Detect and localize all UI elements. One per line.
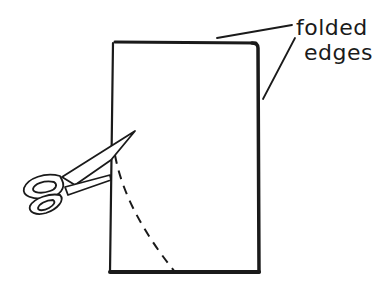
paper-top-folded-edge — [115, 42, 256, 43]
leader-lines — [217, 25, 295, 99]
folded-paper-cutting-diagram: folded edges — [0, 0, 391, 296]
folded-paper — [110, 42, 259, 272]
label-folded: folded — [296, 17, 368, 39]
leader-line-top — [217, 25, 292, 38]
label-edges: edges — [304, 42, 373, 64]
leader-line-right — [263, 38, 295, 99]
paper-right-folded-edge — [252, 43, 259, 272]
dashed-cut-line — [115, 155, 175, 272]
